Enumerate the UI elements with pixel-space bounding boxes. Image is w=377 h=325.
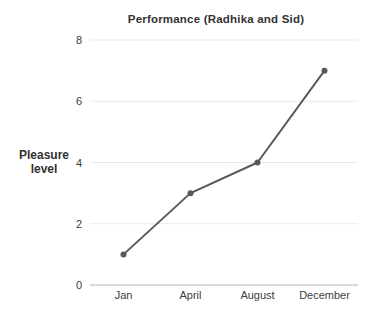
x-tick-label: December [299,289,350,301]
data-point [255,160,261,166]
x-tick-label: August [240,289,274,301]
line-chart-plot: 02468JanAprilAugustDecember [0,0,377,325]
y-tick-label: 8 [76,34,82,46]
y-tick-label: 4 [76,157,82,169]
y-tick-label: 6 [76,95,82,107]
chart-container: Performance (Radhika and Sid) Pleasure l… [0,0,377,325]
data-point [121,251,127,257]
x-tick-label: April [179,289,201,301]
y-tick-label: 0 [76,279,82,291]
data-point [322,68,328,74]
data-point [188,190,194,196]
y-tick-label: 2 [76,218,82,230]
x-tick-label: Jan [115,289,133,301]
